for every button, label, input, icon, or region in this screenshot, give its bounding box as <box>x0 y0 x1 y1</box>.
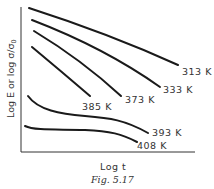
label-373k: 373 K <box>125 94 155 105</box>
label-385k: 385 K <box>82 101 112 112</box>
label-408k: 408 K <box>137 140 167 151</box>
curve-313k <box>29 8 178 65</box>
x-axis-label: Log t <box>100 161 126 172</box>
label-313k: 313 K <box>182 66 212 77</box>
figure-caption: Fig. 5.17 <box>90 174 135 185</box>
curve-385k <box>32 47 90 96</box>
y-axis-label: Log E or log σ/σ0 <box>5 39 18 118</box>
label-393k: 393 K <box>152 127 182 138</box>
curve-333k <box>32 20 160 87</box>
label-333k: 333 K <box>163 84 193 95</box>
curve-408k <box>25 126 137 142</box>
creep-chart: 313 K 333 K 373 K 385 K 393 K 408 K Log … <box>0 0 214 189</box>
y-axis-label-subscript: 0 <box>10 39 18 43</box>
y-axis-label-main: Log E or log σ/σ <box>5 44 16 119</box>
